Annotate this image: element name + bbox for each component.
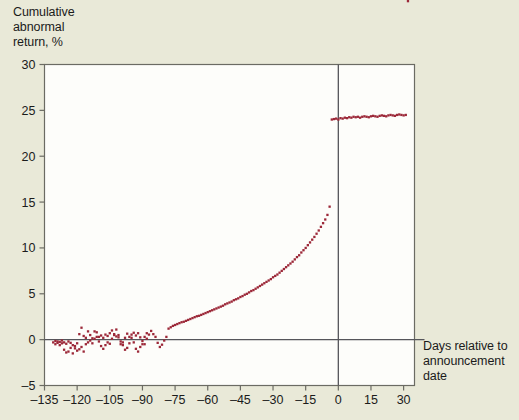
x-tick-label: –135: [31, 393, 59, 407]
data-point: [122, 341, 124, 343]
data-point: [344, 117, 346, 119]
data-point: [154, 336, 156, 338]
data-point: [374, 115, 376, 117]
data-point: [368, 116, 370, 118]
data-point: [78, 348, 80, 350]
data-point: [133, 341, 135, 343]
data-point: [172, 325, 174, 327]
data-point: [124, 337, 126, 339]
x-axis-label: Days relative to announcement date: [423, 339, 515, 384]
data-point: [98, 336, 100, 338]
data-point: [381, 114, 383, 116]
data-point: [270, 278, 272, 280]
data-point: [211, 309, 213, 311]
y-axis-label-line-1: Cumulative: [13, 5, 133, 20]
data-point: [130, 333, 132, 335]
x-tick-label: –15: [295, 393, 316, 407]
data-point: [342, 117, 344, 119]
data-point: [61, 339, 63, 341]
data-point: [215, 307, 217, 309]
data-point: [207, 311, 209, 313]
data-point: [93, 338, 95, 340]
data-point: [204, 312, 206, 314]
data-point: [379, 115, 381, 117]
data-point: [233, 299, 235, 301]
data-point: [289, 262, 291, 264]
data-point: [324, 218, 326, 220]
y-tick-label: 0: [29, 333, 36, 347]
data-point: [124, 349, 126, 351]
data-point: [272, 276, 274, 278]
x-tick-label: –90: [132, 393, 153, 407]
data-point: [72, 352, 74, 354]
y-tick-label: 15: [22, 196, 36, 210]
data-point: [120, 343, 122, 345]
data-point: [326, 214, 328, 216]
data-point: [120, 340, 122, 342]
data-point: [287, 264, 289, 266]
data-point: [305, 247, 307, 249]
data-point: [346, 117, 348, 119]
x-tick-label: –105: [96, 393, 124, 407]
data-point: [135, 348, 137, 350]
data-point: [263, 282, 265, 284]
data-point: [59, 341, 61, 343]
data-point: [163, 339, 165, 341]
data-point: [102, 348, 104, 350]
data-point: [402, 114, 404, 116]
data-point: [161, 344, 163, 346]
data-point: [405, 114, 407, 116]
data-point: [85, 337, 87, 339]
data-point: [363, 115, 365, 117]
data-point: [61, 342, 63, 344]
data-point: [115, 328, 117, 330]
data-point: [291, 261, 293, 263]
data-point: [159, 346, 161, 348]
data-point: [191, 317, 193, 319]
data-point: [117, 334, 119, 336]
data-point: [143, 343, 145, 345]
data-point: [104, 344, 106, 346]
data-point: [128, 336, 130, 338]
data-point: [111, 329, 113, 331]
data-point: [89, 339, 91, 341]
data-point: [187, 319, 189, 321]
data-point: [239, 296, 241, 298]
data-point: [126, 347, 128, 349]
data-point: [298, 254, 300, 256]
data-point: [348, 116, 350, 118]
data-point: [135, 334, 137, 336]
x-tick-label: 15: [364, 393, 378, 407]
data-point: [137, 332, 139, 334]
data-point: [328, 206, 330, 208]
data-point: [93, 330, 95, 332]
y-tick-label: 10: [22, 241, 36, 255]
y-axis-label: Cumulative abnormal return, %: [13, 5, 133, 50]
data-point: [194, 316, 196, 318]
x-tick-label: –30: [263, 393, 284, 407]
data-point: [385, 115, 387, 117]
data-point: [246, 293, 248, 295]
data-point: [109, 343, 111, 345]
data-point: [65, 343, 67, 345]
data-point: [383, 115, 385, 117]
data-point: [231, 300, 233, 302]
data-point: [250, 290, 252, 292]
data-point: [370, 115, 372, 117]
data-point: [396, 114, 398, 116]
data-point: [337, 118, 339, 120]
data-point: [167, 327, 169, 329]
y-tick-label: –5: [22, 379, 36, 393]
data-point: [339, 117, 341, 119]
data-point: [106, 341, 108, 343]
data-point: [257, 286, 259, 288]
data-point: [350, 117, 352, 119]
data-point: [320, 226, 322, 228]
data-point: [87, 330, 89, 332]
data-point: [252, 289, 254, 291]
data-point: [130, 337, 132, 339]
data-point: [372, 115, 374, 117]
data-point: [89, 334, 91, 336]
data-point: [80, 346, 82, 348]
y-tick-label: 25: [22, 104, 36, 118]
